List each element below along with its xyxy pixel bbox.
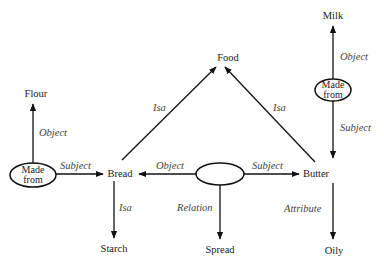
node-flour: Flour	[25, 88, 48, 99]
label-object-flour: Object	[39, 127, 68, 138]
node-food: Food	[217, 52, 239, 63]
label-subject-bread: Subject	[60, 160, 92, 171]
label-object-milk: Object	[340, 51, 369, 62]
label-subject-butter: Subject	[340, 122, 372, 133]
semantic-network-diagram: Made from Made from Food Milk Flour Brea…	[0, 0, 384, 264]
node-milk: Milk	[323, 10, 344, 21]
made-from-right-line2: from	[323, 89, 343, 100]
node-starch: Starch	[101, 243, 129, 254]
edge-butter-isa-food	[225, 67, 315, 162]
label-center-subject-butter: Subject	[252, 160, 284, 171]
relation-node-made-from-right: Made from	[315, 79, 351, 101]
label-center-relation-spread: Relation	[176, 202, 213, 213]
label-butter-isa-food: Isa	[272, 102, 286, 113]
node-spread: Spread	[205, 244, 235, 255]
label-bread-isa-food: Isa	[152, 102, 166, 113]
label-butter-attribute-oily: Attribute	[283, 203, 322, 214]
made-from-left-line2: from	[23, 174, 43, 185]
edge-bread-isa-food	[122, 67, 216, 160]
relation-node-center	[196, 163, 244, 185]
label-center-object-bread: Object	[156, 160, 185, 171]
node-bread: Bread	[107, 168, 133, 179]
node-oily: Oily	[325, 245, 344, 256]
node-butter: Butter	[303, 168, 330, 179]
label-bread-isa-starch: Isa	[118, 202, 132, 213]
relation-node-made-from-left: Made from	[10, 163, 56, 187]
